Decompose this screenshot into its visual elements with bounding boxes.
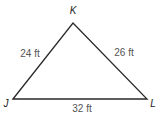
vertex-label-k: K (70, 5, 78, 16)
vertex-label-j: J (3, 98, 10, 109)
side-label-jk: 24 ft (20, 48, 40, 59)
triangle-diagram: K J L 24 ft 26 ft 32 ft (0, 0, 162, 121)
vertex-label-l: L (150, 98, 156, 109)
triangle-jkl (13, 23, 147, 99)
side-label-jl: 32 ft (72, 103, 92, 114)
side-label-kl: 26 ft (114, 47, 134, 58)
